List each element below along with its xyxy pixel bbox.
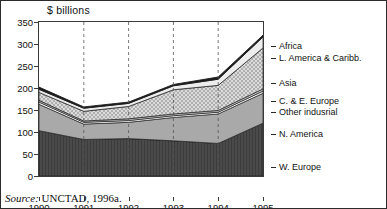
- x-axis-label-1995: 1995: [252, 202, 273, 209]
- y-axis-tick-150: [34, 110, 39, 111]
- legend-dash-icon: [271, 167, 276, 168]
- x-axis-line: [38, 176, 264, 177]
- legend-label: Asia: [279, 78, 297, 88]
- legend-label: W. Europe: [279, 162, 321, 172]
- y-axis-label-50: 50: [3, 149, 33, 160]
- stacked-area-plot: [39, 22, 263, 176]
- x-axis-tick-1993: [173, 197, 174, 201]
- legend-dash-icon: [271, 134, 276, 135]
- legend-item-asia: Asia: [271, 78, 297, 88]
- x-axis-label-1994: 1994: [208, 202, 229, 209]
- legend-item-africa: Africa: [271, 41, 302, 51]
- legend-label: Africa: [279, 41, 302, 51]
- y-axis-tick-350: [34, 22, 39, 23]
- legend-item-w-europe: W. Europe: [271, 162, 321, 172]
- legend-dash-icon: [271, 46, 276, 47]
- y-axis-label-0: 0: [3, 171, 33, 182]
- y-axis-tick-50: [34, 154, 39, 155]
- y-axis-label-150: 150: [3, 105, 33, 116]
- plot-area: 350300250200150100500 199019911992199319…: [39, 22, 263, 176]
- y-axis-tick-250: [34, 66, 39, 67]
- legend-item-other-indusrial: Other indusrial: [271, 107, 338, 117]
- source-citation: UNCTAD, 1996a.: [39, 192, 122, 204]
- legend-label: Other indusrial: [279, 107, 338, 117]
- x-axis-tick-1994: [218, 197, 219, 201]
- legend-item-n-america: N. America: [271, 129, 323, 139]
- legend-label: N. America: [279, 129, 323, 139]
- legend-label: L. America & Caribb.: [279, 53, 362, 63]
- legend-dash-icon: [271, 112, 276, 113]
- y-axis-tick-100: [34, 132, 39, 133]
- y-axis-label-100: 100: [3, 127, 33, 138]
- legend-dash-icon: [271, 83, 276, 84]
- y-axis-label-300: 300: [3, 39, 33, 50]
- x-axis-label-1993: 1993: [163, 202, 184, 209]
- y-axis-label-250: 250: [3, 61, 33, 72]
- x-axis-tick-1995: [263, 197, 264, 201]
- x-axis-tick-1992: [129, 197, 130, 201]
- legend-label: C. & E. Europe: [279, 96, 339, 106]
- chart-figure: $ billions: [0, 0, 387, 209]
- legend-item-l-america-caribb: L. America & Caribb.: [271, 53, 362, 63]
- legend-dash-icon: [271, 58, 276, 59]
- source-note: Source: UNCTAD, 1996a.: [5, 192, 122, 204]
- legend-dash-icon: [271, 101, 276, 102]
- chart-axis-title: $ billions: [47, 4, 90, 16]
- y-axis-tick-300: [34, 44, 39, 45]
- y-axis-label-350: 350: [3, 17, 33, 28]
- area-bands: [39, 35, 263, 176]
- y-axis-tick-200: [34, 88, 39, 89]
- plot-right-border: [263, 22, 264, 177]
- source-label: Source:: [5, 192, 39, 204]
- legend-item-c-e-europe: C. & E. Europe: [271, 96, 339, 106]
- y-axis-tick-0: [34, 176, 39, 177]
- y-axis-label-200: 200: [3, 83, 33, 94]
